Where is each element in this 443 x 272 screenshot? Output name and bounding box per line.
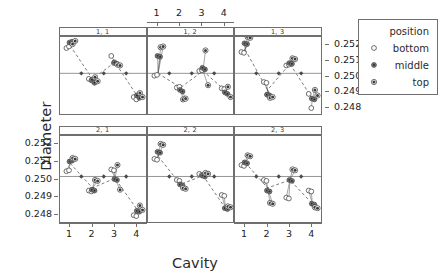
trellis-chart-figure: Diameter Cavity 1234 0.2480.2490.2500.25…: [0, 0, 443, 272]
panel-13: [234, 36, 322, 115]
legend-entry-top: top: [359, 75, 437, 89]
panel-strip-label: 1, 3: [271, 28, 285, 36]
panel-strip-label: 2, 2: [183, 126, 197, 134]
legend-title: position: [359, 26, 437, 37]
panel-21: [59, 135, 147, 223]
x-tick-label: 3: [111, 228, 117, 239]
panel-strip-label: 2, 1: [96, 126, 110, 134]
panel-strip-11: 1, 1: [59, 27, 147, 36]
panel-12: [147, 36, 235, 115]
x-tick-mark: [114, 223, 115, 227]
x-tick-label: 4: [308, 228, 314, 239]
x-tick-label: 1: [66, 228, 72, 239]
panel-strip-21: 2, 1: [59, 126, 147, 135]
panel-11: [59, 36, 147, 115]
x-tick-label: 3: [286, 228, 292, 239]
panel-22: [147, 135, 235, 223]
filled-circle-icon: [365, 60, 383, 70]
x-tick-mark: [267, 223, 268, 227]
legend-label: middle: [383, 60, 429, 71]
legend: position bottommiddletop: [358, 19, 438, 95]
x-tick-label: 2: [89, 228, 95, 239]
panel-strip-22: 2, 2: [147, 126, 235, 135]
panel-strip-label: 2, 3: [271, 126, 285, 134]
legend-entry-bottom: bottom: [359, 41, 437, 55]
x-tick-label: 4: [133, 228, 139, 239]
x-tick-mark: [136, 223, 137, 227]
x-tick-label: 1: [241, 228, 247, 239]
x-tick-mark: [92, 223, 93, 227]
x-tick-mark: [244, 223, 245, 227]
panel-strip-label: 1, 2: [183, 28, 197, 36]
x-tick-label: 2: [264, 228, 270, 239]
panel-23: [234, 135, 322, 223]
legend-label: bottom: [383, 43, 429, 54]
panel-strip-12: 1, 2: [147, 27, 235, 36]
panel-strip-13: 1, 3: [234, 27, 322, 36]
dotted-circle-icon: [365, 77, 383, 87]
open-circle-icon: [365, 43, 383, 53]
panel-strip-label: 1, 1: [96, 28, 110, 36]
x-tick-mark: [311, 223, 312, 227]
panel-strip-23: 2, 3: [234, 126, 322, 135]
legend-label: top: [383, 77, 429, 88]
legend-entry-middle: middle: [359, 58, 437, 72]
x-tick-mark: [289, 223, 290, 227]
x-tick-mark: [69, 223, 70, 227]
